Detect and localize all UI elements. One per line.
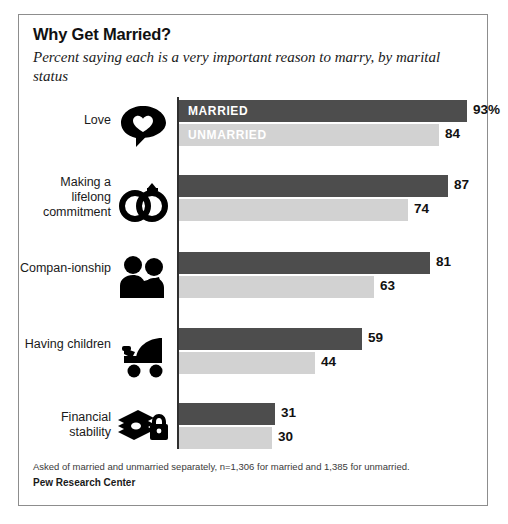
bar-value-unmarried-companionship: 63 <box>380 278 395 293</box>
money-lock-icon <box>115 400 173 452</box>
bar-unmarried-commitment <box>179 199 408 221</box>
plot-area: Love MARRIED 93% UNMARRIED <box>19 95 489 450</box>
bar-value-unmarried-love: 84 <box>445 126 460 141</box>
category-label-financial: Financial stability <box>19 410 111 440</box>
bar-value-married-financial: 31 <box>281 405 296 420</box>
two-people-icon <box>115 251 173 303</box>
bar-unmarried-children <box>179 352 315 374</box>
bars-children: 59 44 <box>179 323 489 394</box>
wedding-rings-icon <box>115 175 173 227</box>
bar-value-married-love: 93% <box>473 102 500 117</box>
bar-group-children: Having children 59 44 <box>19 323 489 394</box>
bar-group-financial: Financial stability 31 <box>19 398 489 469</box>
bar-value-unmarried-commitment: 74 <box>414 201 429 216</box>
bar-value-married-children: 59 <box>368 330 383 345</box>
chart-subtitle: Percent saying each is a very important … <box>33 48 453 86</box>
bar-value-unmarried-children: 44 <box>321 354 336 369</box>
series-label-unmarried: UNMARRIED <box>188 128 267 142</box>
heart-speech-bubble-icon <box>115 100 173 152</box>
category-label-commitment: Making a lifelong commitment <box>19 175 111 220</box>
bar-value-unmarried-financial: 30 <box>278 429 293 444</box>
category-label-companionship: Compan-ionship <box>19 261 111 276</box>
bar-married-children <box>179 328 362 350</box>
bar-unmarried-financial <box>179 427 272 449</box>
bar-married-commitment <box>179 175 448 197</box>
bar-unmarried-love: UNMARRIED <box>179 124 439 146</box>
bar-married-financial <box>179 403 275 425</box>
bar-group-commitment: Making a lifelong commitment 87 74 <box>19 170 489 241</box>
bar-married-companionship <box>179 252 430 274</box>
chart-source: Pew Research Center <box>33 477 135 488</box>
bars-love: MARRIED 93% UNMARRIED 84 <box>179 95 489 166</box>
page-title: Why Get Married? <box>33 25 171 44</box>
bars-financial: 31 30 <box>179 398 489 469</box>
category-label-children: Having children <box>19 337 111 352</box>
baby-stroller-icon <box>115 329 173 381</box>
series-label-married: MARRIED <box>188 104 248 118</box>
bar-unmarried-companionship <box>179 276 374 298</box>
bar-group-companionship: Compan-ionship 81 63 <box>19 247 489 318</box>
bars-commitment: 87 74 <box>179 170 489 241</box>
bar-value-married-companionship: 81 <box>436 254 451 269</box>
chart-card: Why Get Married? Percent saying each is … <box>18 14 488 506</box>
bars-companionship: 81 63 <box>179 247 489 318</box>
bar-married-love: MARRIED <box>179 100 467 122</box>
bar-value-married-commitment: 87 <box>454 177 469 192</box>
category-label-love: Love <box>19 113 111 128</box>
category-label-commitment-text: Making a lifelong commitment <box>43 175 111 219</box>
bar-group-love: Love MARRIED 93% UNMARRIED <box>19 95 489 166</box>
chart-footnote: Asked of married and unmarried separatel… <box>33 461 479 473</box>
